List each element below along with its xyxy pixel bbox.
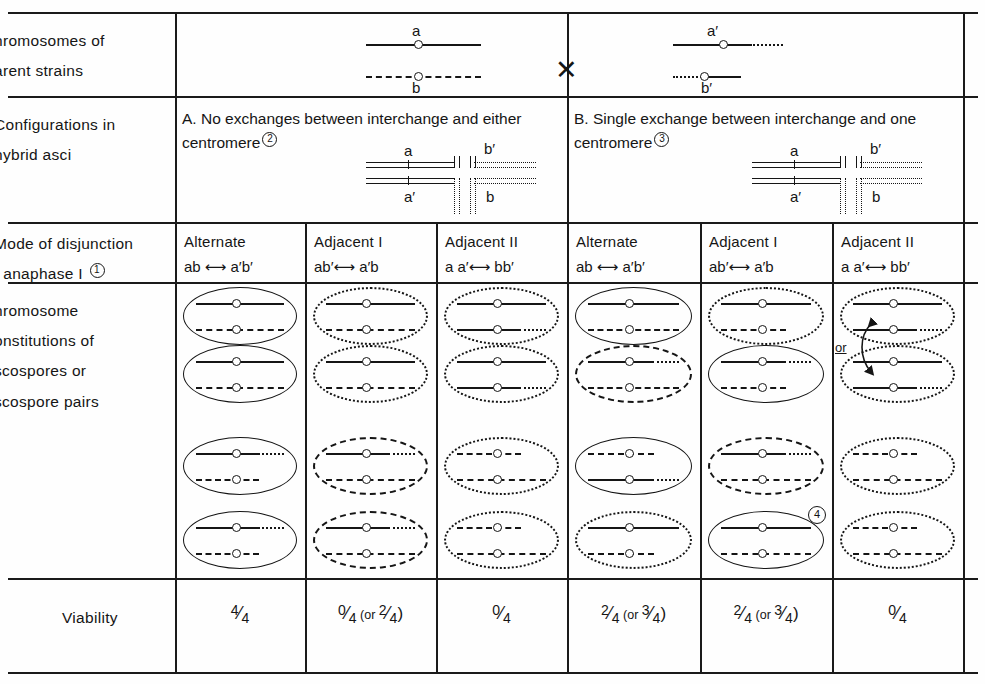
chromosome-arm <box>652 479 679 481</box>
footnote-marker-3: 3 <box>654 132 669 147</box>
column-head-gametes-4: ab′⟷ a′b <box>709 258 774 276</box>
centromere <box>758 549 767 558</box>
chromosome-arm <box>457 527 521 529</box>
centromere <box>232 523 241 532</box>
centromere <box>625 325 634 334</box>
grid-vline-section <box>567 12 569 672</box>
quadrivalent-centromere <box>794 160 795 169</box>
chromosome-arm <box>519 329 546 331</box>
quadrivalent-centromere <box>794 176 795 185</box>
centromere <box>625 549 634 558</box>
column-head-gametes-2: a a′⟷ bb′ <box>445 258 514 276</box>
grid-vline-right <box>963 12 965 672</box>
centromere <box>758 325 767 334</box>
centromere <box>362 325 371 334</box>
chromosome-arm <box>196 479 259 481</box>
centromere <box>889 383 898 392</box>
ascospore-ellipse-c0-r0 <box>183 287 297 345</box>
centromere <box>232 383 241 392</box>
chromosome-arm <box>673 44 750 46</box>
centromere <box>758 357 767 366</box>
centromere <box>758 449 767 458</box>
allele-label-a: a <box>412 22 420 39</box>
column-head-mode-0: Alternate <box>184 233 246 250</box>
chromosome-arm <box>588 479 652 481</box>
quadrivalent-strand-right <box>474 162 536 163</box>
chromosome-arm <box>721 361 784 363</box>
grid-hline-0 <box>8 12 978 14</box>
quadrivalent-label-br: b <box>872 188 880 205</box>
centromere <box>232 325 241 334</box>
quadrivalent-label-bl: a′ <box>790 188 801 205</box>
ascospore-ellipse-c3-r2 <box>575 437 692 495</box>
or-label: or <box>835 340 847 355</box>
ascospore-ellipse-c4-r2 <box>708 437 824 495</box>
column-head-mode-4: Adjacent I <box>709 233 778 250</box>
footnote-marker-1: 1 <box>90 263 105 278</box>
grid-hline-5 <box>8 672 978 674</box>
ascospore-ellipse-c3-r3 <box>575 511 692 569</box>
row-label-chromosome-constitutions: hromosome onstitutions of scospores or s… <box>0 296 99 417</box>
viability-value-0: 4⁄4 <box>175 603 305 624</box>
quadrivalent-strand-left <box>366 167 454 168</box>
centromere <box>493 549 502 558</box>
centromere <box>625 523 634 532</box>
quadrivalent-label-tr: b′ <box>484 140 495 157</box>
centromere <box>625 475 634 484</box>
quadrivalent-strand-right <box>860 178 922 179</box>
chromosome-arm <box>388 527 415 529</box>
centromere <box>362 383 371 392</box>
quadrivalent-strand-left <box>752 162 840 163</box>
row-label-viability: Viability <box>62 603 118 633</box>
column-head-mode-2: Adjacent II <box>445 233 518 250</box>
quadrivalent-label-bl: a′ <box>404 188 415 205</box>
quadrivalent-configuration-A: aa′b′b <box>366 146 541 216</box>
chromosome-arm <box>588 453 654 455</box>
ascospore-ellipse-c5-r2 <box>840 437 955 495</box>
chromosome-arm <box>366 44 481 46</box>
centromere <box>493 449 502 458</box>
chromosome-arm <box>519 387 546 389</box>
centromere <box>493 325 502 334</box>
cell-footnote-4: 4 <box>806 506 826 528</box>
chromosome-arm <box>721 329 786 331</box>
quadrivalent-arm-v <box>840 156 841 168</box>
chromosome-arm <box>366 76 481 78</box>
grid-hline-1 <box>8 96 978 98</box>
or-annotation: or <box>847 318 897 380</box>
chromosome-arm <box>588 361 652 363</box>
quadrivalent-arm-v <box>845 156 846 168</box>
ascospore-ellipse-c1-r0 <box>313 287 428 345</box>
centromere <box>889 523 898 532</box>
quadrivalent-arm-v <box>470 178 471 214</box>
centromere <box>758 475 767 484</box>
chromosome-arm <box>784 453 811 455</box>
centromere <box>232 449 241 458</box>
quadrivalent-arm-v <box>475 156 476 168</box>
ascospore-ellipse-c4-r0 <box>708 287 824 345</box>
quadrivalent-label-tl: a <box>790 142 798 159</box>
column-head-mode-5: Adjacent II <box>841 233 914 250</box>
centromere <box>625 383 634 392</box>
centromere <box>625 357 634 366</box>
centromere <box>493 299 502 308</box>
quadrivalent-centromere <box>408 160 409 169</box>
chromosome-arm <box>673 76 702 78</box>
chromosome-arm <box>784 361 811 363</box>
quadrivalent-arm-v <box>856 156 857 168</box>
centromere <box>889 449 898 458</box>
centromere <box>493 475 502 484</box>
column-head-gametes-1: ab′⟷ a′b <box>314 258 379 276</box>
quadrivalent-strand-left <box>752 183 840 184</box>
quadrivalent-arm-v <box>861 178 862 214</box>
quadrivalent-strand-right <box>860 167 922 168</box>
chromosome-arm <box>721 387 786 389</box>
quadrivalent-arm-v <box>861 156 862 168</box>
centromere <box>758 523 767 532</box>
column-head-gametes-5: a a′⟷ bb′ <box>841 258 910 276</box>
centromere <box>232 475 241 484</box>
centromere <box>362 449 371 458</box>
footnote-marker-4: 4 <box>808 506 826 524</box>
chromosome-arm <box>915 387 942 389</box>
centromere <box>362 475 371 484</box>
